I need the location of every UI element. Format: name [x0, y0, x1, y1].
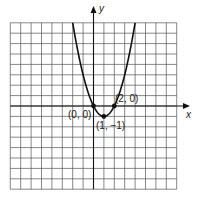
- y-axis-label: y: [99, 4, 104, 14]
- point-label-vertex: (1, −1): [96, 121, 125, 131]
- point-marker: [112, 104, 117, 109]
- x-axis-label: x: [186, 110, 191, 120]
- point-marker: [91, 104, 96, 109]
- point-label-origin: (0, 0): [68, 110, 91, 120]
- point-label-2-0: (2, 0): [115, 94, 138, 104]
- coordinate-plane: [0, 0, 199, 199]
- point-marker: [102, 114, 107, 119]
